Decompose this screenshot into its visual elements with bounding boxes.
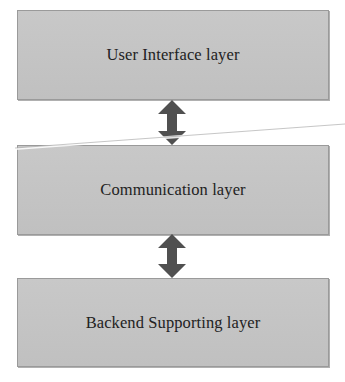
layer-box-communication: Communication layer	[17, 145, 329, 235]
layer-label-user-interface: User Interface layer	[107, 45, 240, 65]
layer-box-user-interface: User Interface layer	[17, 10, 329, 100]
layer-box-backend-supporting: Backend Supporting layer	[17, 278, 329, 367]
layer-label-communication: Communication layer	[100, 180, 245, 200]
bidirectional-arrow-icon	[158, 100, 186, 145]
layer-label-backend-supporting: Backend Supporting layer	[86, 313, 261, 333]
bidirectional-arrow-icon	[158, 234, 186, 278]
